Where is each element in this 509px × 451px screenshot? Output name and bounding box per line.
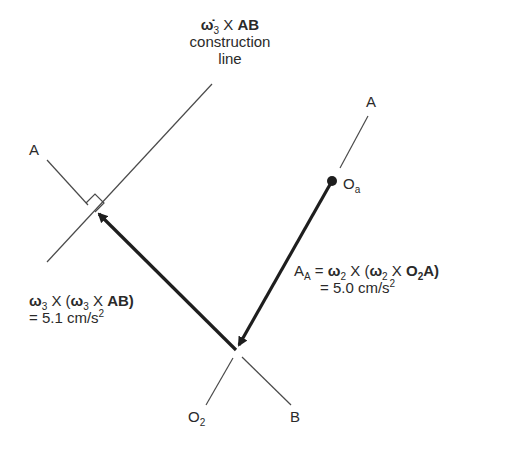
line-word: line [175, 50, 285, 67]
o2-vector: O [406, 262, 418, 279]
omega2-symbol: ω [328, 262, 341, 279]
omega3-dot-symbol: ω̇ [201, 16, 214, 33]
a-vector-end: A) [423, 262, 439, 279]
accel-ab-value-text: = 5.1 cm/s [29, 309, 99, 326]
construction-line-label: ω̇3 X AB construction line [175, 16, 285, 67]
o2-main: O [188, 408, 200, 425]
accel-a-value-exponent: 2 [390, 278, 396, 289]
construction-line [47, 84, 212, 262]
accel-ab-value-exponent: 2 [99, 308, 105, 319]
o2-leg [206, 358, 233, 405]
point-oa-label: Oa [343, 175, 360, 192]
mechanism-diagram [0, 0, 509, 451]
aa-main: A [294, 262, 304, 279]
aa-subscript: A [304, 271, 311, 282]
cross-symbol: X [51, 292, 61, 309]
cross-symbol: X [350, 262, 360, 279]
omega3-symbol: ω [29, 292, 42, 309]
o2-subscript: 2 [200, 417, 206, 428]
construction-formula: ω̇3 X AB [175, 16, 285, 33]
accel-a-formula: AA = ω2 X (ω2 X O2A) [294, 262, 439, 279]
accel-a-value-text: = 5.0 cm/s [320, 279, 390, 296]
oa-subscript: a [355, 184, 361, 195]
accel-a-equation: AA = ω2 X (ω2 X O2A) = 5.0 cm/s2 [294, 262, 439, 296]
b-leg [242, 357, 291, 405]
accel-ab-equation: ω3 X (ω3 X AB) = 5.1 cm/s2 [29, 292, 134, 326]
cross-symbol: X [392, 262, 402, 279]
oa-main: O [343, 175, 355, 192]
cross-symbol: X [223, 16, 233, 33]
omega3-symbol: ω [71, 292, 84, 309]
equals-sign: = [315, 262, 324, 279]
point-a-right-label: A [366, 93, 376, 110]
construction-word: construction [175, 33, 285, 50]
accel-ab-formula: ω3 X (ω3 X AB) [29, 292, 134, 309]
cross-symbol: X [93, 292, 103, 309]
arrow-normal-accel-ab [99, 214, 236, 350]
oa-to-a-line [340, 116, 368, 168]
point-o2-label: O2 [188, 408, 205, 425]
ab-line-segment [47, 160, 88, 205]
point-a-left-label: A [29, 141, 39, 158]
point-b-label: B [290, 408, 300, 425]
vector-ab: AB [237, 16, 259, 33]
ab-vector: AB) [107, 292, 134, 309]
pivot-oa-dot [327, 176, 337, 186]
omega2-symbol: ω [369, 262, 382, 279]
accel-ab-value: = 5.1 cm/s2 [29, 309, 134, 326]
